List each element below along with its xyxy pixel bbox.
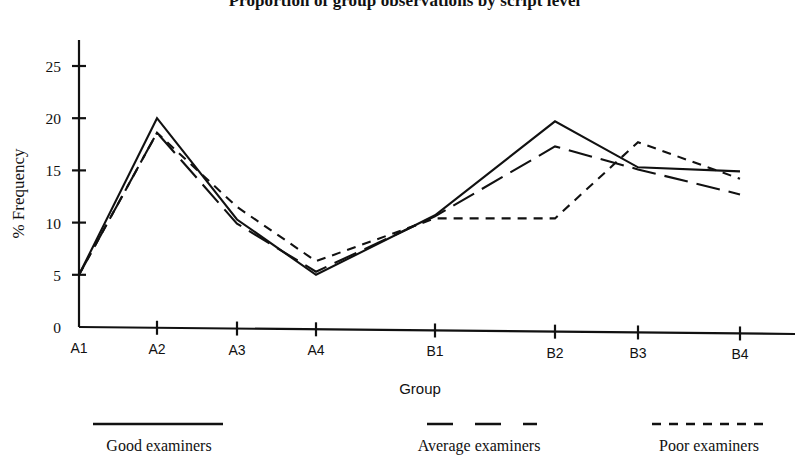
x-axis-line <box>79 327 795 334</box>
x-tick-label: B4 <box>731 346 748 362</box>
legend-label-average-examiners: Average examiners <box>418 437 541 455</box>
y-tick-label: 20 <box>46 110 62 127</box>
legend-label-good-examiners: Good examiners <box>106 437 211 454</box>
x-tick-label: A1 <box>70 340 87 356</box>
x-tick-label: B2 <box>546 345 563 361</box>
y-tick-label: 15 <box>46 162 62 179</box>
x-tick-label: A2 <box>148 341 165 357</box>
series-line-good-examiners <box>79 118 740 275</box>
y-tick-label: 0 <box>53 319 61 336</box>
line-chart-plot: 0510152025% FrequencyA1A2A3A4B1B2B3B4Gro… <box>0 0 809 462</box>
x-tick-label: B1 <box>426 343 443 359</box>
y-tick-label: 10 <box>46 215 62 232</box>
x-axis-title: Group <box>399 380 441 397</box>
chart-page: Proportion of group observations by scri… <box>0 0 809 462</box>
series-line-poor-examiners <box>79 133 740 275</box>
x-tick-label: A3 <box>228 342 245 358</box>
x-tick-label: B3 <box>629 345 646 361</box>
x-tick-label: A4 <box>307 342 324 358</box>
series-line-average-examiners <box>79 133 740 275</box>
y-tick-label: 5 <box>53 267 61 284</box>
legend-label-poor-examiners: Poor examiners <box>659 437 759 454</box>
y-axis-title: % Frequency <box>9 148 28 239</box>
y-tick-label: 25 <box>46 58 62 75</box>
